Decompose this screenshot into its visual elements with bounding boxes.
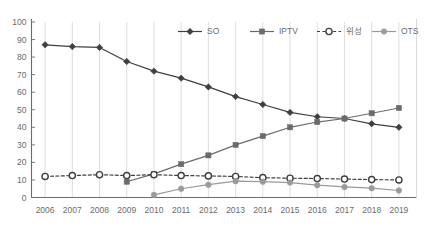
y-tick-label: 20 bbox=[17, 157, 27, 167]
series-marker bbox=[178, 75, 184, 81]
series-marker bbox=[151, 192, 157, 198]
x-tick-label: 2011 bbox=[172, 205, 191, 215]
series-marker bbox=[178, 172, 184, 178]
series-marker bbox=[96, 172, 102, 178]
series-marker bbox=[42, 173, 48, 179]
series-marker bbox=[260, 133, 265, 138]
series-marker bbox=[178, 186, 184, 192]
y-tick-label: 80 bbox=[17, 52, 27, 62]
series-marker bbox=[42, 42, 48, 48]
x-tick-label: 2006 bbox=[36, 205, 55, 215]
x-tick-label: 2014 bbox=[253, 205, 272, 215]
axes bbox=[32, 19, 417, 198]
series-marker bbox=[151, 172, 157, 178]
series-marker bbox=[314, 114, 320, 120]
x-tick-label: 2009 bbox=[117, 205, 136, 215]
series-marker bbox=[233, 178, 239, 184]
x-tick-label: 2019 bbox=[389, 205, 408, 215]
series-marker bbox=[69, 172, 75, 178]
series-marker bbox=[369, 185, 375, 191]
chart-container: 0102030405060708090100 20062007200820092… bbox=[0, 0, 430, 231]
series-marker bbox=[260, 179, 266, 185]
series-marker bbox=[233, 142, 238, 147]
series-marker bbox=[179, 162, 184, 167]
line-chart: 0102030405060708090100 20062007200820092… bbox=[0, 0, 430, 231]
y-tick-label: 0 bbox=[22, 193, 27, 203]
series-marker bbox=[341, 176, 347, 182]
series-so bbox=[42, 42, 402, 131]
series-marker bbox=[369, 176, 375, 182]
legend-marker bbox=[187, 28, 193, 34]
chart-legend: SOIPTV위성OTS bbox=[178, 26, 419, 36]
series-marker bbox=[396, 124, 402, 130]
series-marker bbox=[342, 116, 347, 121]
y-tick-label: 30 bbox=[17, 140, 27, 150]
y-tick-label: 100 bbox=[12, 17, 26, 27]
x-tick-label: 2016 bbox=[308, 205, 327, 215]
legend-item-so[interactable]: SO bbox=[178, 26, 220, 36]
series-ots bbox=[151, 178, 402, 197]
legend-item-ots[interactable]: OTS bbox=[372, 26, 419, 36]
legend-item-iptv[interactable]: IPTV bbox=[250, 26, 298, 36]
legend-marker bbox=[259, 29, 264, 34]
series-marker bbox=[342, 184, 348, 190]
x-tick-label: 2017 bbox=[335, 205, 354, 215]
legend-marker bbox=[381, 29, 387, 35]
series-marker bbox=[124, 179, 129, 184]
series-satellite bbox=[42, 172, 402, 183]
series-marker bbox=[368, 121, 374, 127]
series-marker bbox=[205, 84, 211, 90]
legend-marker bbox=[326, 28, 332, 34]
x-tick-label: 2013 bbox=[226, 205, 245, 215]
x-tick-label: 2018 bbox=[362, 205, 381, 215]
y-tick-label: 70 bbox=[17, 70, 27, 80]
y-tick-label: 90 bbox=[17, 35, 27, 45]
series-marker bbox=[396, 105, 401, 110]
series-marker bbox=[315, 119, 320, 124]
series-line bbox=[154, 181, 399, 195]
x-tick-label: 2007 bbox=[63, 205, 82, 215]
legend-label: OTS bbox=[401, 26, 419, 36]
series-marker bbox=[287, 109, 293, 115]
series-marker bbox=[205, 173, 211, 179]
legend-label: IPTV bbox=[279, 26, 298, 36]
series-marker bbox=[206, 153, 211, 158]
series-marker bbox=[151, 68, 157, 74]
y-tick-label: 50 bbox=[17, 105, 27, 115]
x-axis-tick-labels: 2006200720082009201020112012201320142015… bbox=[36, 205, 409, 215]
series-marker bbox=[69, 43, 75, 49]
series-marker bbox=[124, 172, 130, 178]
series-marker bbox=[124, 58, 130, 64]
series-marker bbox=[314, 175, 320, 181]
series-marker bbox=[369, 111, 374, 116]
y-tick-label: 10 bbox=[17, 175, 27, 185]
series-marker bbox=[287, 180, 293, 186]
x-tick-label: 2015 bbox=[281, 205, 300, 215]
series-marker bbox=[232, 93, 238, 99]
y-tick-label: 60 bbox=[17, 87, 27, 97]
series-marker bbox=[396, 188, 402, 194]
legend-label: SO bbox=[207, 26, 220, 36]
series-marker bbox=[314, 182, 320, 188]
x-tick-label: 2008 bbox=[90, 205, 109, 215]
series-line bbox=[45, 45, 399, 127]
y-tick-label: 40 bbox=[17, 122, 27, 132]
series-marker bbox=[96, 44, 102, 50]
legend-item-satellite[interactable]: 위성 bbox=[317, 26, 362, 36]
data-series-layer bbox=[42, 42, 402, 198]
series-marker bbox=[396, 177, 402, 183]
x-tick-label: 2012 bbox=[199, 205, 218, 215]
x-tick-label: 2010 bbox=[145, 205, 164, 215]
series-marker bbox=[287, 125, 292, 130]
series-marker bbox=[206, 182, 212, 188]
series-marker bbox=[260, 101, 266, 107]
legend-label: 위성 bbox=[346, 26, 362, 36]
